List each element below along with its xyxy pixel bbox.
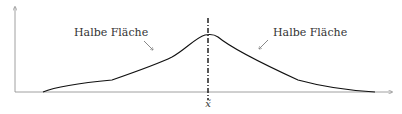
left-area-label: Halbe Fläche (74, 26, 148, 39)
right-area-arrow (259, 40, 268, 49)
left-area-arrow (144, 41, 153, 50)
distribution-curve (43, 34, 375, 92)
right-area-label: Halbe Fläche (273, 26, 347, 39)
median-diagram: Halbe Fläche Halbe Fläche x̃ (0, 0, 402, 114)
median-label: x̃ (205, 98, 211, 109)
